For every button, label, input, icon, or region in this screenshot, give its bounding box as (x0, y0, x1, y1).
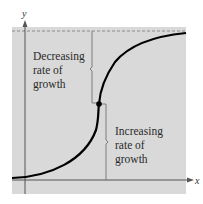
inflection-point (96, 101, 102, 107)
logistic-growth-diagram: y x Decreasing rate of growth Increasing… (0, 0, 203, 204)
y-axis-arrow-icon (23, 20, 28, 27)
y-axis-label: y (21, 8, 27, 19)
x-axis-arrow-icon (187, 178, 194, 183)
x-axis-label: x (194, 175, 200, 186)
